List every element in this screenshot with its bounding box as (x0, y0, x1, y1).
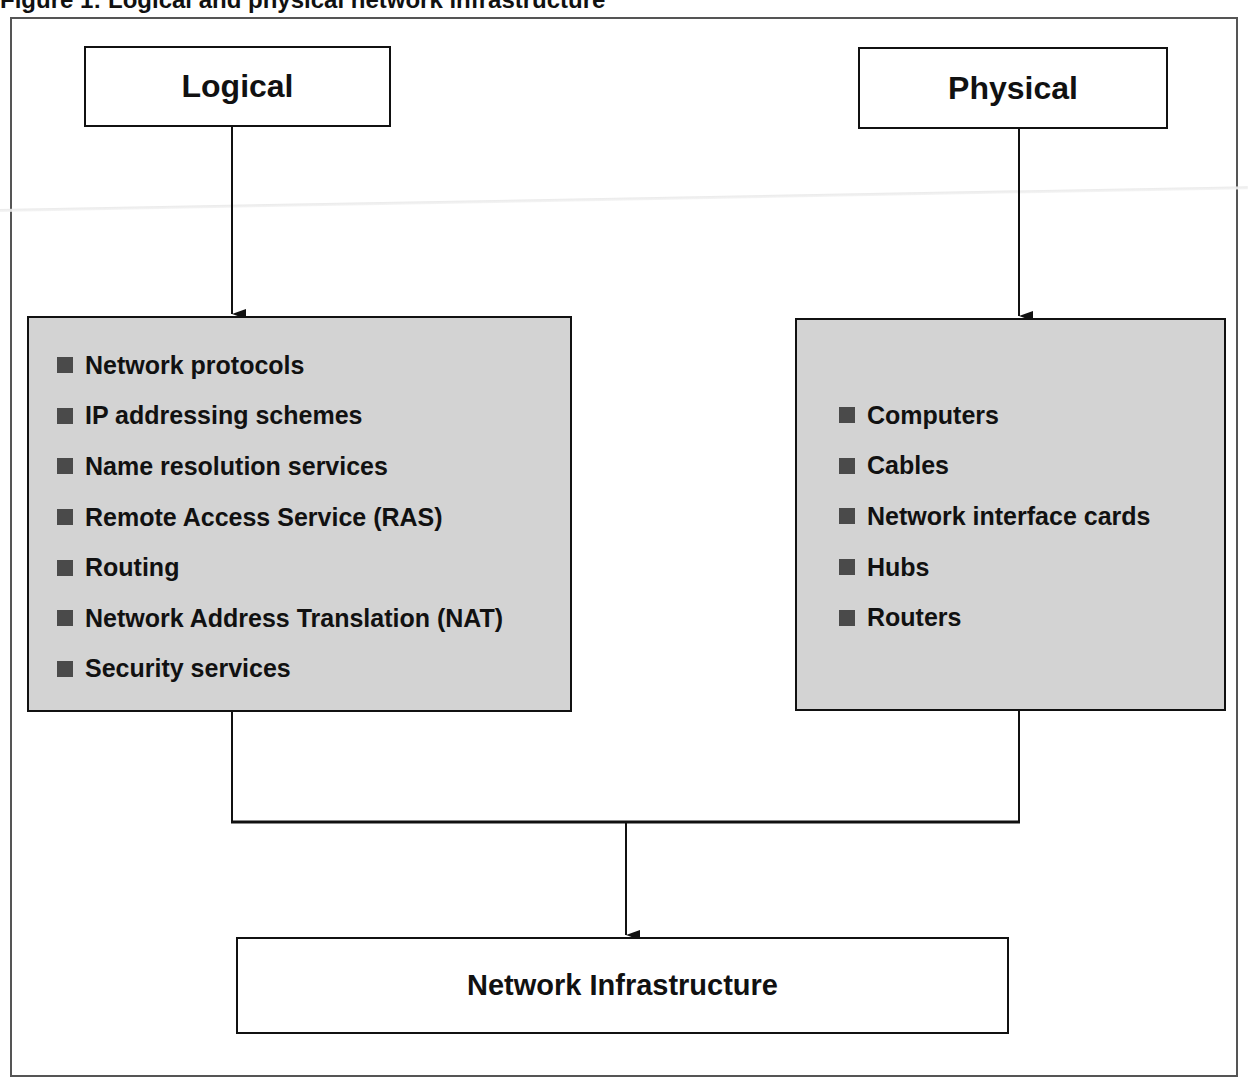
list-item: Name resolution services (57, 441, 503, 492)
square-bullet-icon (839, 559, 855, 575)
list-item-label: IP addressing schemes (85, 401, 362, 430)
list-item: Security services (57, 644, 503, 695)
list-item: Cables (839, 441, 1150, 492)
physical-heading: Physical (948, 70, 1078, 107)
square-bullet-icon (57, 610, 73, 626)
list-item: Network protocols (57, 340, 503, 391)
list-item-label: Network interface cards (867, 502, 1150, 531)
logical-item-list: Network protocols IP addressing schemes … (57, 340, 503, 694)
physical-item-list: Computers Cables Network interface cards… (839, 390, 1150, 643)
list-item: Remote Access Service (RAS) (57, 492, 503, 543)
list-item-label: Computers (867, 401, 999, 430)
square-bullet-icon (57, 661, 73, 677)
list-item-label: Network protocols (85, 351, 304, 380)
logical-items-box: Network protocols IP addressing schemes … (27, 316, 572, 712)
list-item: Routers (839, 592, 1150, 643)
list-item-label: Name resolution services (85, 452, 388, 481)
square-bullet-icon (839, 610, 855, 626)
square-bullet-icon (57, 357, 73, 373)
logical-header-box: Logical (84, 46, 391, 127)
list-item: Network interface cards (839, 491, 1150, 542)
logical-heading: Logical (181, 68, 293, 105)
list-item: IP addressing schemes (57, 391, 503, 442)
list-item-label: Routers (867, 603, 961, 632)
list-item-label: Security services (85, 654, 291, 683)
square-bullet-icon (57, 408, 73, 424)
square-bullet-icon (57, 458, 73, 474)
list-item-label: Routing (85, 553, 179, 582)
list-item-label: Hubs (867, 553, 930, 582)
square-bullet-icon (57, 560, 73, 576)
network-infrastructure-label: Network Infrastructure (467, 969, 778, 1002)
list-item-label: Cables (867, 451, 949, 480)
list-item: Routing (57, 542, 503, 593)
figure-title: Figure 1: Logical and physical network i… (0, 0, 605, 14)
list-item: Computers (839, 390, 1150, 441)
network-infrastructure-box: Network Infrastructure (236, 937, 1009, 1034)
square-bullet-icon (839, 508, 855, 524)
list-item-label: Network Address Translation (NAT) (85, 604, 503, 633)
square-bullet-icon (839, 458, 855, 474)
square-bullet-icon (839, 407, 855, 423)
list-item: Network Address Translation (NAT) (57, 593, 503, 644)
physical-items-box: Computers Cables Network interface cards… (795, 318, 1226, 711)
square-bullet-icon (57, 509, 73, 525)
physical-header-box: Physical (858, 47, 1168, 129)
list-item-label: Remote Access Service (RAS) (85, 503, 443, 532)
list-item: Hubs (839, 542, 1150, 593)
